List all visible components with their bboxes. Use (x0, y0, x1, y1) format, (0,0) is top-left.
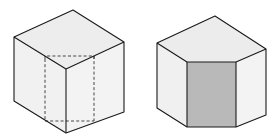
diagram-canvas (0, 0, 278, 139)
cut-right-face (236, 49, 266, 127)
cut-shaded-face (187, 62, 236, 127)
figure-cube-cut-out (157, 16, 266, 127)
figure-cube-hidden-prism (14, 10, 124, 133)
